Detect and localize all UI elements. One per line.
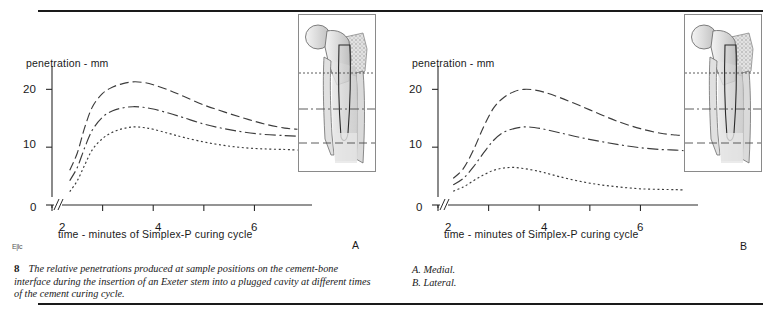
note-b: B. Lateral. (412, 277, 456, 290)
femoral-stem-inset-a (298, 14, 376, 172)
femoral-stem-diagram-icon (299, 15, 375, 171)
y-axis-title-b: penetration - mm (412, 57, 495, 69)
x-tick-2-b: 2 (445, 221, 451, 233)
x-tick-6-b: 6 (637, 221, 643, 233)
figure-number: 8 (14, 262, 20, 274)
panel-letter-a: A (352, 239, 359, 251)
femoral-stem-diagram-icon (685, 15, 761, 171)
panel-a: penetration - mm time - minutes of Simpl… (0, 0, 385, 258)
figure-caption: 8The relative penetrations produced at s… (14, 262, 374, 301)
y-axis-title-a: penetration - mm (26, 57, 109, 69)
figure-caption-text: The relative penetrations produced at sa… (14, 263, 371, 299)
figure-root: penetration - mm time - minutes of Simpl… (0, 0, 771, 314)
x-tick-2-a: 2 (59, 221, 65, 233)
bottom-rule (38, 303, 763, 305)
y-tick-10-a: 10 (23, 138, 36, 150)
panel-b: penetration - mm time - minutes of Simpl… (386, 0, 771, 258)
y-tick-10-b: 10 (409, 138, 422, 150)
corner-mark: E|Ic (12, 243, 22, 250)
x-tick-4-b: 4 (541, 221, 547, 233)
y-tick-20-b: 20 (409, 83, 422, 95)
femoral-stem-inset-b (684, 14, 762, 172)
y-tick-0-b: 0 (416, 201, 422, 213)
panel-letter-b: B (740, 240, 747, 252)
y-tick-20-a: 20 (23, 83, 36, 95)
note-a: A. Medial. (412, 264, 456, 277)
y-tick-0-a: 0 (30, 201, 36, 213)
x-tick-4-a: 4 (155, 221, 161, 233)
panel-legend-notes: A. Medial. B. Lateral. (412, 264, 456, 289)
x-tick-6-a: 6 (251, 221, 257, 233)
